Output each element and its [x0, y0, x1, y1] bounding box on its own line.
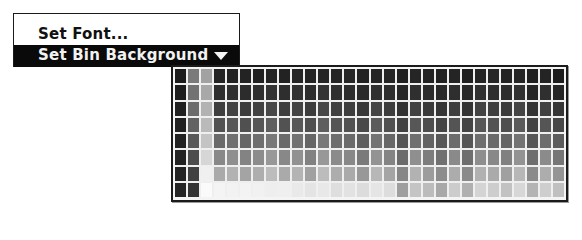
color-swatch[interactable]: [475, 85, 486, 99]
color-swatch[interactable]: [344, 150, 355, 164]
color-swatch[interactable]: [540, 69, 551, 83]
menu-item-set-font[interactable]: Set Font...: [14, 24, 239, 45]
color-swatch[interactable]: [188, 102, 199, 116]
color-swatch[interactable]: [527, 150, 538, 164]
color-swatch[interactable]: [449, 102, 460, 116]
color-swatch[interactable]: [540, 150, 551, 164]
color-swatch[interactable]: [253, 118, 264, 132]
color-swatch[interactable]: [488, 69, 499, 83]
color-swatch[interactable]: [253, 167, 264, 181]
color-swatch[interactable]: [305, 85, 316, 99]
color-swatch[interactable]: [462, 69, 473, 83]
color-swatch[interactable]: [266, 102, 277, 116]
color-swatch[interactable]: [488, 85, 499, 99]
color-swatch[interactable]: [344, 134, 355, 148]
color-swatch[interactable]: [266, 183, 277, 197]
color-swatch[interactable]: [553, 118, 564, 132]
color-swatch[interactable]: [462, 183, 473, 197]
color-swatch[interactable]: [488, 102, 499, 116]
color-swatch[interactable]: [240, 102, 251, 116]
color-swatch[interactable]: [410, 167, 421, 181]
color-swatch[interactable]: [462, 134, 473, 148]
color-swatch[interactable]: [384, 118, 395, 132]
color-swatch[interactable]: [331, 134, 342, 148]
color-swatch[interactable]: [305, 167, 316, 181]
color-swatch[interactable]: [318, 150, 329, 164]
color-swatch[interactable]: [553, 150, 564, 164]
color-swatch[interactable]: [371, 85, 382, 99]
color-swatch[interactable]: [357, 183, 368, 197]
color-swatch[interactable]: [240, 167, 251, 181]
color-swatch[interactable]: [384, 183, 395, 197]
color-swatch[interactable]: [553, 134, 564, 148]
color-swatch[interactable]: [240, 69, 251, 83]
color-swatch[interactable]: [371, 167, 382, 181]
color-swatch[interactable]: [344, 85, 355, 99]
color-swatch[interactable]: [475, 102, 486, 116]
color-swatch[interactable]: [292, 85, 303, 99]
color-swatch[interactable]: [475, 183, 486, 197]
color-swatch[interactable]: [475, 150, 486, 164]
color-swatch[interactable]: [397, 102, 408, 116]
color-swatch[interactable]: [410, 85, 421, 99]
color-swatch[interactable]: [305, 102, 316, 116]
color-swatch[interactable]: [449, 134, 460, 148]
color-swatch[interactable]: [423, 85, 434, 99]
color-swatch[interactable]: [266, 167, 277, 181]
color-swatch[interactable]: [462, 85, 473, 99]
color-swatch[interactable]: [371, 150, 382, 164]
color-swatch[interactable]: [436, 69, 447, 83]
color-swatch[interactable]: [188, 85, 199, 99]
color-swatch[interactable]: [514, 167, 525, 181]
color-swatch[interactable]: [449, 167, 460, 181]
color-swatch[interactable]: [279, 118, 290, 132]
color-swatch[interactable]: [305, 150, 316, 164]
color-swatch[interactable]: [227, 85, 238, 99]
color-swatch[interactable]: [410, 134, 421, 148]
color-swatch[interactable]: [214, 134, 225, 148]
color-swatch[interactable]: [371, 134, 382, 148]
color-swatch[interactable]: [397, 150, 408, 164]
color-swatch[interactable]: [540, 134, 551, 148]
color-swatch[interactable]: [214, 150, 225, 164]
color-swatch[interactable]: [410, 102, 421, 116]
color-swatch[interactable]: [357, 85, 368, 99]
color-swatch[interactable]: [397, 167, 408, 181]
color-swatch[interactable]: [384, 150, 395, 164]
color-swatch[interactable]: [397, 183, 408, 197]
color-swatch[interactable]: [410, 183, 421, 197]
color-swatch[interactable]: [449, 69, 460, 83]
color-swatch[interactable]: [214, 102, 225, 116]
menu-item-set-bin-background[interactable]: Set Bin Background: [14, 45, 239, 67]
color-swatch[interactable]: [436, 183, 447, 197]
color-swatch[interactable]: [331, 69, 342, 83]
color-swatch[interactable]: [501, 118, 512, 132]
color-swatch[interactable]: [475, 167, 486, 181]
color-swatch[interactable]: [357, 167, 368, 181]
color-swatch[interactable]: [514, 183, 525, 197]
color-swatch[interactable]: [501, 85, 512, 99]
color-swatch[interactable]: [279, 150, 290, 164]
color-swatch[interactable]: [410, 118, 421, 132]
color-swatch[interactable]: [253, 102, 264, 116]
color-swatch[interactable]: [501, 150, 512, 164]
color-swatch[interactable]: [279, 85, 290, 99]
color-swatch[interactable]: [514, 69, 525, 83]
color-swatch[interactable]: [188, 134, 199, 148]
color-swatch[interactable]: [292, 69, 303, 83]
color-swatch[interactable]: [331, 150, 342, 164]
color-swatch[interactable]: [188, 183, 199, 197]
color-swatch[interactable]: [318, 134, 329, 148]
color-swatch[interactable]: [449, 85, 460, 99]
color-swatch[interactable]: [527, 134, 538, 148]
color-swatch[interactable]: [371, 69, 382, 83]
color-swatch[interactable]: [292, 118, 303, 132]
color-swatch[interactable]: [436, 118, 447, 132]
color-swatch[interactable]: [253, 85, 264, 99]
color-swatch[interactable]: [371, 102, 382, 116]
color-swatch[interactable]: [527, 183, 538, 197]
color-swatch[interactable]: [331, 183, 342, 197]
color-swatch[interactable]: [253, 150, 264, 164]
color-swatch[interactable]: [344, 69, 355, 83]
color-swatch[interactable]: [214, 167, 225, 181]
